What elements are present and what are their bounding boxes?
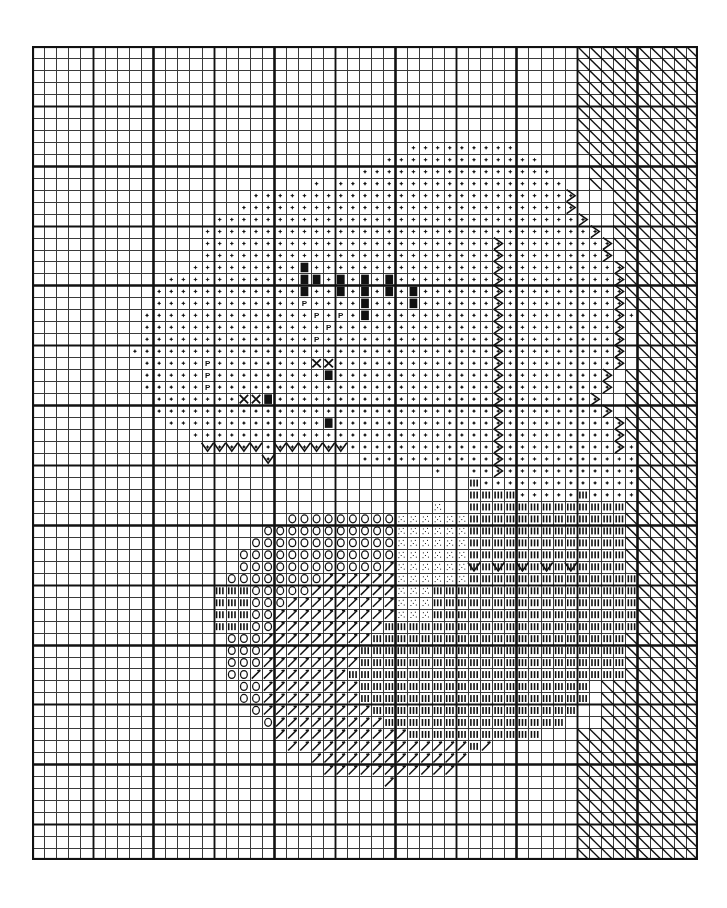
cross-stitch-chart (32, 46, 698, 860)
pattern-page: Cross-Stitch Pattern Chart Symbols used … (0, 0, 727, 908)
chart-grid-canvas (32, 46, 698, 860)
